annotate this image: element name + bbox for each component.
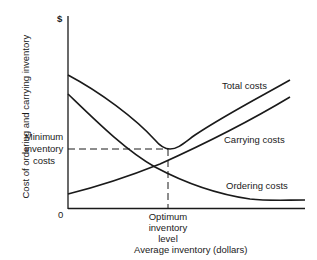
y-unit-label: $	[57, 13, 62, 24]
min-cost-label-line3: costs	[22, 155, 66, 166]
x-axis-title: Average inventory (dollars)	[134, 244, 247, 255]
origin-label: 0	[58, 209, 63, 220]
min-cost-label-line1: Minimum	[22, 131, 66, 142]
optimum-label-line2: inventory	[138, 222, 198, 233]
ordering-costs-label: Ordering costs	[226, 180, 288, 191]
total-costs-label: Total costs	[222, 80, 267, 91]
optimum-label-line1: Optimum	[138, 211, 198, 222]
optimum-label-line3: level	[138, 233, 198, 244]
carrying-costs-label: Carrying costs	[224, 134, 285, 145]
min-cost-label-line2: inventory	[22, 143, 66, 154]
y-axis-title: Cost of ordering and carrying inventory	[20, 39, 31, 199]
inventory-cost-chart: $ 0 Cost of ordering and carrying invent…	[0, 0, 317, 260]
